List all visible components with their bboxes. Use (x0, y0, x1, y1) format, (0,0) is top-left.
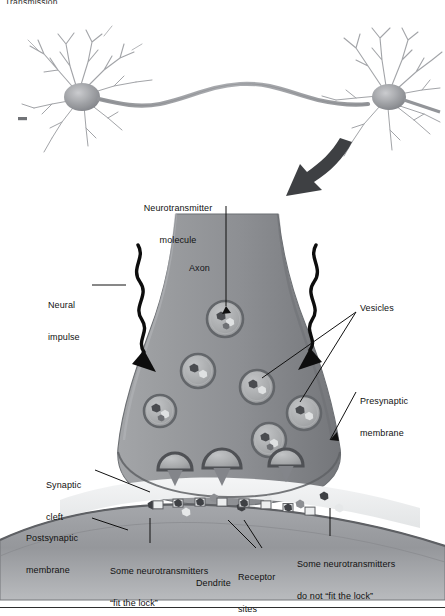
receptor-site (261, 501, 271, 509)
label-neurotransmitter-molecule: Neurotransmitter molecule (144, 182, 213, 266)
receptor-site (217, 498, 227, 506)
top-neuron-pair (18, 26, 442, 156)
figure-canvas: Transmission (0, 0, 445, 616)
receptor-site (305, 507, 315, 515)
receptor-site (195, 498, 205, 506)
vesicle (207, 301, 243, 337)
label-line: Synaptic (46, 480, 81, 491)
label-line: Receptor (238, 572, 275, 583)
left-neuron-soma (64, 83, 100, 111)
label-dendrite: Dendrite (196, 578, 231, 589)
label-neural-impulse: Neural impulse (48, 279, 80, 363)
receptor-site (153, 501, 163, 509)
vesicle (144, 395, 176, 427)
label-line: membrane (360, 428, 408, 439)
vesicle (287, 396, 321, 430)
label-presynaptic-membrane: Presynaptic membrane (360, 375, 408, 459)
label-line: Neurotransmitter (144, 203, 213, 214)
receptor-site (239, 499, 249, 507)
impulse-right (309, 245, 317, 350)
label-line: Some neurotransmitters (297, 559, 395, 570)
label-fit-the-lock: Some neurotransmitters “fit the lock” (110, 545, 208, 616)
right-neuron-axon (404, 100, 440, 112)
label-line: Presynaptic (360, 396, 408, 407)
label-line: Neural (48, 300, 80, 311)
label-postsynaptic-membrane: Postsynaptic membrane (26, 512, 78, 596)
label-line: membrane (26, 565, 78, 576)
label-line: sites (238, 604, 275, 615)
label-line: molecule (144, 235, 213, 246)
label-line: impulse (48, 332, 80, 343)
label-vesicles: Vesicles (360, 303, 394, 314)
right-neuron-soma (372, 84, 406, 110)
receptor-site (283, 504, 293, 512)
zoom-in-arrow (286, 138, 352, 196)
label-line: Postsynaptic (26, 533, 78, 544)
label-line: do not “fit the lock” (297, 591, 395, 602)
scale-bar (18, 117, 27, 120)
label-do-not-fit-the-lock: Some neurotransmitters do not “fit the l… (297, 538, 395, 616)
receptor-site (173, 499, 183, 507)
vesicle (240, 370, 274, 404)
footer-divider (0, 607, 445, 608)
label-line: Some neurotransmitters (110, 566, 208, 577)
label-axon: Axon (189, 263, 210, 274)
vesicle (181, 354, 215, 388)
